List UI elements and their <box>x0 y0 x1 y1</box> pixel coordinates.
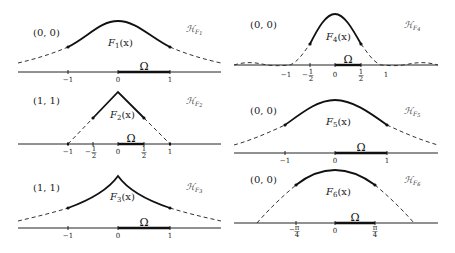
tick-label: 1 <box>384 71 388 79</box>
corner-label: (0, 0) <box>33 27 60 38</box>
curve-extension-left <box>68 118 93 144</box>
curve-extension-left <box>234 44 310 66</box>
tick-label: 1 <box>385 157 389 165</box>
omega-label: Ω <box>350 211 359 224</box>
omega-label: Ω <box>126 132 135 145</box>
omega-label: Ω <box>139 216 148 229</box>
curve-extension-right <box>361 44 438 66</box>
curve-extension-left <box>18 47 68 63</box>
space-label: ℋF3 <box>186 182 202 194</box>
tick-label: 1 <box>168 232 172 240</box>
tick-label: 0 <box>116 76 120 84</box>
tick-label: 0 <box>333 227 337 235</box>
tick-label: 0 <box>116 232 120 240</box>
function-label: F2(x) <box>109 109 135 122</box>
function-label: F1(x) <box>107 37 133 50</box>
space-label: ℋF2 <box>186 96 202 108</box>
tick-label: 0 <box>333 71 337 79</box>
curve-extension-left <box>234 125 285 145</box>
tick-label-half: 1 2 <box>142 145 147 160</box>
tick-label: 1 <box>168 76 172 84</box>
function-label: F6(x) <box>325 186 351 199</box>
function-label: F4(x) <box>325 31 351 44</box>
panel-f5: −1 0 1 Ω (0, 0) F5(x) ℋF5 <box>234 100 438 165</box>
svg-text:4: 4 <box>373 231 378 239</box>
svg-text:2: 2 <box>92 152 96 160</box>
corner-label: (1, 1) <box>33 182 60 193</box>
svg-text:2: 2 <box>309 75 313 83</box>
tick-label: 0 <box>116 148 120 156</box>
omega-label: Ω <box>343 53 352 66</box>
function-label: F3(x) <box>109 191 135 204</box>
tick-label: −1 <box>63 76 73 84</box>
curve-extension-left <box>18 208 68 221</box>
omega-label: Ω <box>356 141 365 154</box>
corner-label: (0, 0) <box>250 105 277 116</box>
svg-text:2: 2 <box>142 152 146 160</box>
function-label: F5(x) <box>325 116 351 129</box>
space-label: ℋF6 <box>404 175 421 187</box>
svg-text:2: 2 <box>359 75 363 83</box>
curve-f6 <box>296 170 375 185</box>
curve-extension-right <box>144 118 170 144</box>
corner-label: (1, 1) <box>33 95 60 106</box>
tick-label-minus-half: − 1 2 <box>302 68 313 83</box>
panel-f1: −1 0 1 Ω (0, 0) F1(x) ℋF1 <box>18 21 221 84</box>
space-label: ℋF5 <box>404 106 420 118</box>
svg-text:4: 4 <box>295 231 300 239</box>
panel-f6: − π 4 0 π 4 Ω (0, 0) F6(x) ℋF6 <box>234 170 438 239</box>
curve-extension-right <box>170 47 221 63</box>
tick-label: −1 <box>63 148 73 156</box>
curve-extension-left <box>257 185 296 223</box>
kernel-figure: −1 0 1 Ω (0, 0) F1(x) ℋF1 −1 − 1 2 0 1 <box>0 0 455 253</box>
panel-f4: −1 − 1 2 0 1 2 1 Ω (0, 0) F4(x) ℋF4 <box>234 14 438 83</box>
panel-f3: −1 0 1 Ω (1, 1) F3(x) ℋF3 <box>18 176 221 240</box>
space-label: ℋF1 <box>186 24 202 36</box>
svg-text:−: − <box>302 71 308 79</box>
space-label: ℋF4 <box>404 20 420 32</box>
curve-extension-right <box>170 208 221 221</box>
corner-label: (0, 0) <box>250 19 277 30</box>
tick-label-half: 1 2 <box>359 68 364 83</box>
tick-label: −1 <box>63 232 73 240</box>
curve-extension-right <box>375 185 414 223</box>
tick-label: 0 <box>333 157 337 165</box>
curve-extension-right <box>387 125 438 145</box>
omega-label: Ω <box>139 60 148 73</box>
tick-label-minus-half: − 1 2 <box>85 145 96 160</box>
tick-label: −1 <box>281 71 291 79</box>
svg-text:−: − <box>85 148 91 156</box>
panel-f2: −1 − 1 2 0 1 2 1 Ω (1, 1) F2(x) ℋF2 <box>18 92 221 160</box>
corner-label: (0, 0) <box>250 174 277 185</box>
tick-label-minus-pi-over-4: − π 4 <box>289 224 300 239</box>
tick-label: −1 <box>280 157 290 165</box>
tick-label: 1 <box>168 148 172 156</box>
tick-label-pi-over-4: π 4 <box>373 224 378 239</box>
